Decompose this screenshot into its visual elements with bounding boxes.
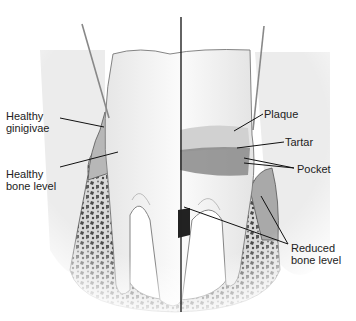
label-pocket: Pocket <box>297 163 331 175</box>
vignette <box>0 0 356 321</box>
periodontal-diagram <box>0 0 356 321</box>
label-tartar: Tartar <box>285 136 313 148</box>
label-healthy-bone-level: Healthy bone level <box>6 168 56 192</box>
label-plaque: Plaque <box>264 108 298 120</box>
label-reduced-bone-level: Reduced bone level <box>291 242 341 266</box>
label-healthy-gingivae: Healthy ginigivae <box>6 110 49 134</box>
